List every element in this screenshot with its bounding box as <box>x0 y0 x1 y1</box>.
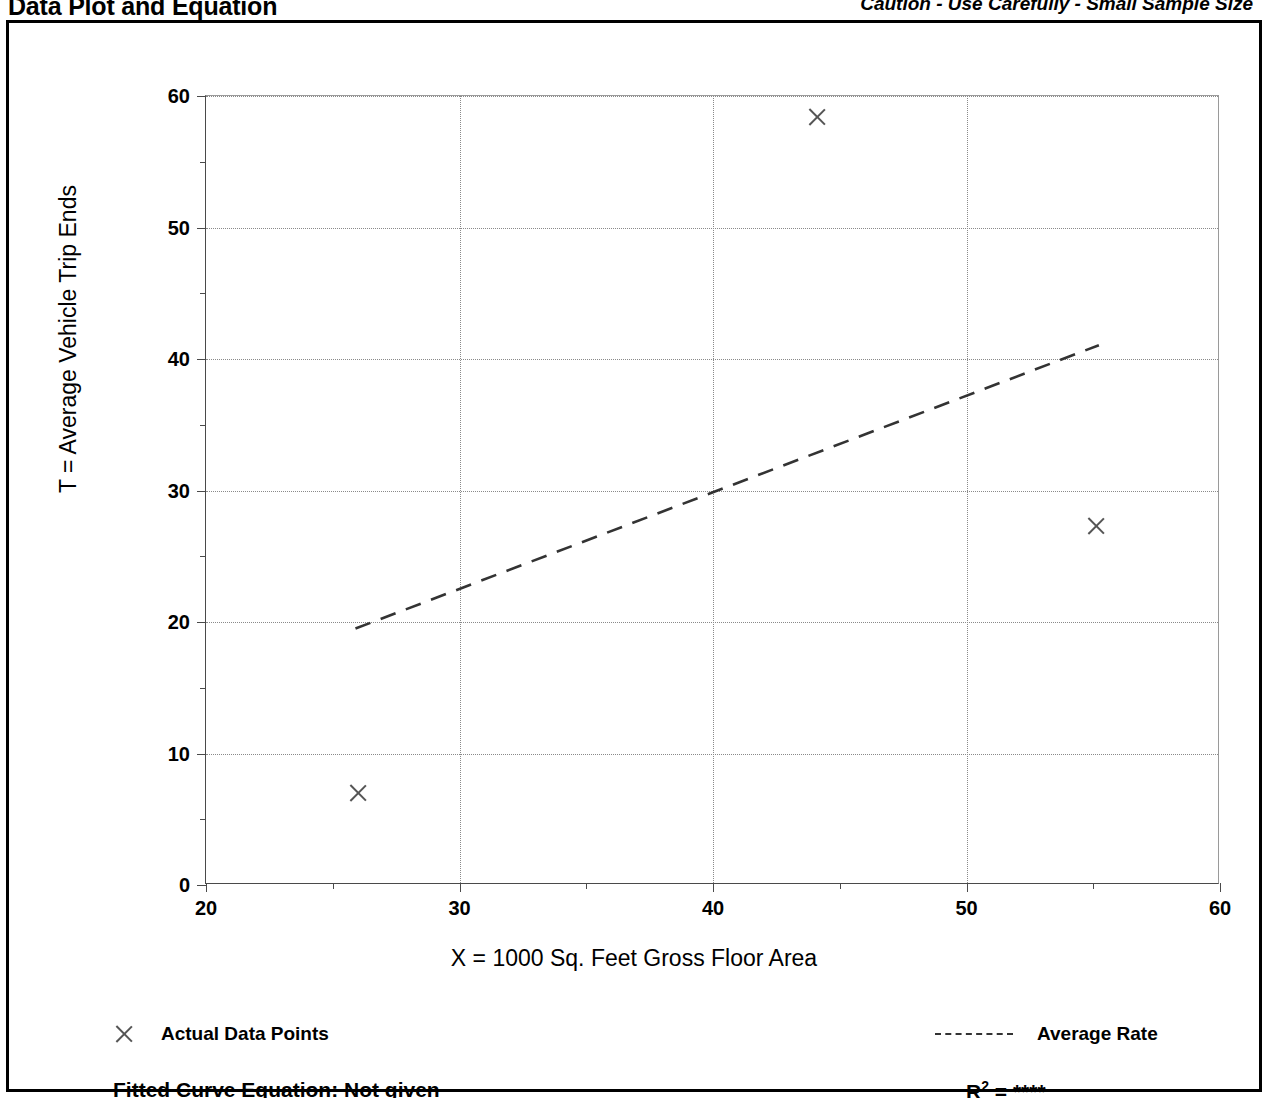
y-axis-tick-minor <box>200 425 206 426</box>
x-axis-tick-minor <box>586 883 587 889</box>
x-axis-tick <box>206 883 207 892</box>
x-axis-tick <box>967 883 968 892</box>
data-point-marker <box>347 782 369 804</box>
x-axis-tick-label: 50 <box>955 897 977 920</box>
y-axis-tick-label: 10 <box>168 742 190 765</box>
gridline-vertical <box>460 96 461 883</box>
x-axis-tick <box>1220 883 1221 892</box>
y-axis-tick <box>197 96 206 97</box>
y-axis-tick <box>197 885 206 886</box>
gridline-horizontal <box>206 622 1218 623</box>
page-title: Data Plot and Equation <box>8 0 277 21</box>
y-axis-tick-label: 60 <box>168 85 190 108</box>
gridline-vertical <box>713 96 714 883</box>
r-squared-prefix: R <box>966 1080 981 1098</box>
gridline-vertical <box>967 96 968 883</box>
plot-area: 01020304050602030405060 <box>205 95 1219 884</box>
data-point-marker <box>1085 515 1107 537</box>
y-axis-tick-label: 30 <box>168 479 190 502</box>
y-axis-tick-label: 50 <box>168 216 190 239</box>
chart-frame: T = Average Vehicle Trip Ends X = 1000 S… <box>6 20 1262 1092</box>
gridline-horizontal <box>206 359 1218 360</box>
legend-data-points-label: Actual Data Points <box>161 1023 329 1045</box>
data-point-marker <box>806 106 828 128</box>
x-cross-icon <box>113 1023 135 1045</box>
x-axis-tick <box>713 883 714 892</box>
r-squared-exponent: 2 <box>981 1078 989 1094</box>
fitted-curve-equation: Fitted Curve Equation: Not given <box>113 1078 440 1098</box>
y-axis-tick-minor <box>200 162 206 163</box>
y-axis-tick-label: 0 <box>179 874 190 897</box>
x-axis-tick-minor <box>333 883 334 889</box>
legend-average-rate-label: Average Rate <box>1037 1023 1158 1045</box>
y-axis-tick-minor <box>200 293 206 294</box>
gridline-horizontal <box>206 228 1218 229</box>
legend-data-points: Actual Data Points <box>113 1023 329 1045</box>
x-axis-tick-minor <box>840 883 841 889</box>
x-axis-tick-label: 30 <box>448 897 470 920</box>
r-squared-number: = **** <box>995 1080 1046 1098</box>
y-axis-tick <box>197 754 206 755</box>
y-axis-title: T = Average Vehicle Trip Ends <box>55 185 82 493</box>
y-axis-tick-minor <box>200 688 206 689</box>
gridline-horizontal <box>206 491 1218 492</box>
legend-average-rate: Average Rate <box>935 1023 1158 1045</box>
x-axis-tick <box>460 883 461 892</box>
x-axis-tick-minor <box>1093 883 1094 889</box>
x-axis-tick-label: 60 <box>1209 897 1231 920</box>
y-axis-tick <box>197 228 206 229</box>
r-squared-value: R2 = **** <box>966 1078 1046 1098</box>
y-axis-tick <box>197 359 206 360</box>
y-axis-tick <box>197 622 206 623</box>
y-axis-tick-label: 20 <box>168 611 190 634</box>
x-axis-tick-label: 40 <box>702 897 724 920</box>
y-axis-tick <box>197 491 206 492</box>
x-axis-title: X = 1000 Sq. Feet Gross Floor Area <box>9 945 1259 972</box>
chart-page: Data Plot and Equation Caution - Use Car… <box>0 0 1269 1098</box>
y-axis-tick-minor <box>200 556 206 557</box>
x-axis-tick-label: 20 <box>195 897 217 920</box>
caution-note: Caution - Use Carefully - Small Sample S… <box>860 0 1253 15</box>
gridline-horizontal <box>206 754 1218 755</box>
gridline-horizontal <box>206 96 1218 97</box>
y-axis-tick-minor <box>200 819 206 820</box>
y-axis-tick-label: 40 <box>168 348 190 371</box>
average-rate-trendline <box>206 96 1218 883</box>
dashed-line-icon <box>935 1033 1013 1035</box>
